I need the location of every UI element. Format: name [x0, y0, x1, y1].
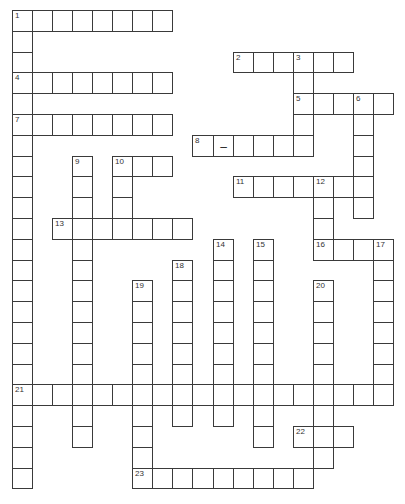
grid-cell[interactable]: 14	[213, 239, 234, 261]
grid-cell[interactable]	[353, 384, 374, 406]
grid-cell[interactable]	[213, 468, 234, 489]
grid-cell[interactable]	[172, 384, 193, 406]
grid-cell[interactable]	[12, 447, 33, 469]
grid-cell[interactable]	[112, 384, 133, 406]
grid-cell[interactable]	[172, 322, 193, 344]
grid-cell[interactable]	[72, 405, 93, 427]
grid-cell[interactable]	[32, 72, 53, 94]
grid-cell[interactable]	[72, 176, 93, 198]
grid-cell[interactable]	[12, 364, 33, 385]
grid-cell[interactable]	[72, 260, 93, 281]
grid-cell[interactable]	[132, 426, 153, 448]
grid-cell[interactable]	[132, 447, 153, 469]
grid-cell[interactable]	[12, 239, 33, 261]
grid-cell[interactable]	[12, 135, 33, 157]
grid-cell[interactable]	[92, 384, 113, 406]
grid-cell[interactable]	[172, 280, 193, 302]
grid-cell[interactable]	[213, 280, 234, 302]
grid-cell[interactable]: 7	[12, 114, 33, 136]
grid-cell[interactable]: 13	[52, 218, 73, 240]
grid-cell[interactable]	[253, 405, 274, 427]
grid-cell[interactable]	[132, 218, 153, 240]
grid-cell[interactable]	[313, 301, 334, 323]
grid-cell[interactable]	[353, 176, 374, 198]
grid-cell[interactable]	[353, 156, 374, 177]
grid-cell[interactable]	[72, 280, 93, 302]
grid-cell[interactable]	[172, 301, 193, 323]
grid-cell[interactable]	[72, 364, 93, 385]
grid-cell[interactable]	[253, 280, 274, 302]
grid-cell[interactable]	[132, 405, 153, 427]
grid-cell[interactable]: 16	[313, 239, 334, 261]
grid-cell[interactable]	[253, 135, 274, 157]
grid-cell[interactable]	[253, 301, 274, 323]
grid-cell[interactable]	[293, 176, 314, 198]
grid-cell[interactable]	[253, 322, 274, 344]
grid-cell[interactable]	[172, 405, 193, 427]
grid-cell[interactable]	[172, 343, 193, 365]
grid-cell[interactable]	[92, 72, 113, 94]
grid-cell[interactable]	[373, 343, 394, 365]
grid-cell[interactable]	[152, 468, 173, 489]
grid-cell[interactable]	[313, 405, 334, 427]
grid-cell[interactable]	[52, 10, 73, 32]
grid-cell[interactable]	[132, 384, 153, 406]
grid-cell[interactable]: 22	[293, 426, 314, 448]
grid-cell[interactable]	[12, 218, 33, 240]
grid-cell[interactable]	[273, 176, 294, 198]
grid-cell[interactable]	[92, 114, 113, 136]
grid-cell[interactable]	[72, 426, 93, 448]
grid-cell[interactable]	[12, 176, 33, 198]
grid-cell[interactable]	[373, 301, 394, 323]
grid-cell[interactable]	[313, 447, 334, 469]
grid-cell[interactable]	[293, 135, 314, 157]
grid-cell[interactable]	[373, 364, 394, 385]
grid-cell[interactable]	[152, 156, 173, 177]
grid-cell[interactable]	[313, 364, 334, 385]
grid-cell[interactable]	[132, 10, 153, 32]
grid-cell[interactable]	[12, 31, 33, 53]
grid-cell[interactable]: 21	[12, 384, 33, 406]
grid-cell[interactable]: 19	[132, 280, 153, 302]
grid-cell[interactable]: 9	[72, 156, 93, 177]
grid-cell[interactable]: –	[213, 135, 234, 157]
grid-cell[interactable]	[12, 426, 33, 448]
grid-cell[interactable]	[52, 72, 73, 94]
grid-cell[interactable]	[172, 364, 193, 385]
grid-cell[interactable]	[253, 364, 274, 385]
grid-cell[interactable]	[132, 322, 153, 344]
grid-cell[interactable]: 8	[192, 135, 214, 157]
grid-cell[interactable]	[12, 156, 33, 177]
grid-cell[interactable]	[32, 384, 53, 406]
grid-cell[interactable]	[172, 218, 193, 240]
grid-cell[interactable]	[112, 218, 133, 240]
grid-cell[interactable]	[213, 384, 234, 406]
grid-cell[interactable]: 11	[233, 176, 254, 198]
grid-cell[interactable]	[152, 218, 173, 240]
grid-cell[interactable]: 5	[293, 93, 314, 115]
grid-cell[interactable]: 1	[12, 10, 33, 32]
grid-cell[interactable]	[293, 468, 314, 489]
grid-cell[interactable]	[112, 72, 133, 94]
grid-cell[interactable]	[12, 343, 33, 365]
grid-cell[interactable]: 15	[253, 239, 274, 261]
grid-cell[interactable]	[373, 322, 394, 344]
grid-cell[interactable]	[353, 114, 374, 136]
grid-cell[interactable]	[112, 114, 133, 136]
grid-cell[interactable]	[293, 114, 314, 136]
grid-cell[interactable]	[72, 218, 93, 240]
grid-cell[interactable]	[213, 364, 234, 385]
grid-cell[interactable]	[313, 343, 334, 365]
grid-cell[interactable]	[273, 52, 294, 73]
grid-cell[interactable]	[72, 322, 93, 344]
grid-cell[interactable]	[32, 10, 53, 32]
grid-cell[interactable]	[313, 197, 334, 219]
grid-cell[interactable]	[152, 72, 173, 94]
grid-cell[interactable]	[253, 468, 274, 489]
grid-cell[interactable]	[12, 322, 33, 344]
grid-cell[interactable]	[132, 72, 153, 94]
grid-cell[interactable]	[213, 405, 234, 427]
grid-cell[interactable]: 23	[132, 468, 153, 489]
grid-cell[interactable]	[12, 197, 33, 219]
grid-cell[interactable]	[132, 114, 153, 136]
